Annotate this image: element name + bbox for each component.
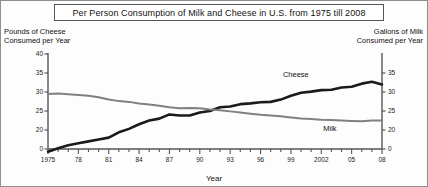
- y-axis-tick-left: 0: [19, 145, 43, 152]
- series-line-cheese: [48, 82, 382, 152]
- x-axis-tick: 78: [62, 156, 94, 163]
- x-axis-tick: 93: [214, 156, 246, 163]
- x-axis-tick: 90: [184, 156, 216, 163]
- x-axis-tick: 08: [366, 156, 398, 163]
- y-axis-tick-right: 30: [388, 88, 412, 95]
- series-label-milk: Milk: [323, 124, 336, 133]
- y-axis-tick-left: 20: [19, 126, 43, 133]
- x-axis-tick: 1975: [32, 156, 64, 163]
- x-axis-tick: 84: [123, 156, 155, 163]
- y-axis-tick-left: 30: [19, 88, 43, 95]
- y-axis-tick-right: 35: [388, 69, 412, 76]
- y-axis-tick-left: 35: [19, 69, 43, 76]
- x-axis-tick: 99: [275, 156, 307, 163]
- y-axis-tick-right: 0: [388, 145, 412, 152]
- x-axis-title: Year: [1, 174, 427, 183]
- series-line-milk: [48, 94, 382, 122]
- y-axis-tick-right: 25: [388, 107, 412, 114]
- x-axis-tick: 05: [336, 156, 368, 163]
- y-axis-tick-right: 20: [388, 126, 412, 133]
- x-axis-tick: 2002: [305, 156, 337, 163]
- x-axis-tick: 96: [245, 156, 277, 163]
- y-axis-tick-left: 40: [19, 50, 43, 57]
- x-axis-tick: 81: [93, 156, 125, 163]
- y-axis-tick-left: 25: [19, 107, 43, 114]
- x-axis-tick: 87: [153, 156, 185, 163]
- chart-figure: Per Person Consumption of Milk and Chees…: [0, 0, 428, 187]
- series-label-cheese: Cheese: [283, 70, 309, 79]
